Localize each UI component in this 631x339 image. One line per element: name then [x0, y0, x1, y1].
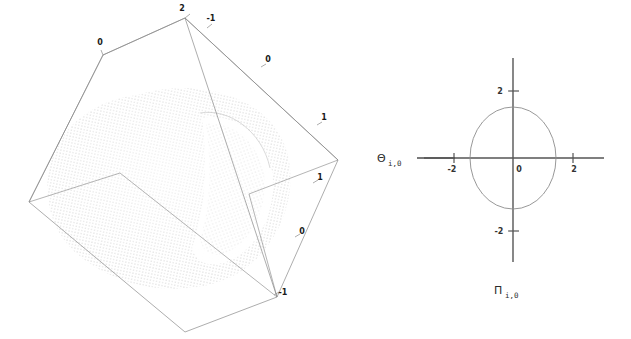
origin-label: 0: [516, 165, 522, 174]
figure-root: 2 -1 0 0 1 1 0 -1 Θ i,0 -2 2 2 -2 0 Π: [0, 0, 631, 339]
axis3d-label-upper-left: 0: [97, 38, 103, 47]
axis3d-label-lower-right-mid: 0: [299, 227, 305, 236]
axis3d-label-upper-right: -1: [207, 14, 216, 23]
x-tick-label-neg2: -2: [448, 165, 457, 174]
axis3d-label-lower-right-top: 1: [317, 173, 323, 182]
axis3d-label-right-edge-mid: 1: [321, 113, 327, 122]
theta-symbol-label: Θ: [377, 152, 386, 165]
pi-symbol-label: Π: [494, 284, 502, 297]
y-tick-label-pos2: 2: [497, 87, 503, 96]
axis3d-label-top-vertex: 2: [179, 4, 185, 13]
x-tick-label-pos2: 2: [571, 165, 577, 174]
theta-label-group: Θ i,0: [377, 152, 455, 168]
theta-subscript-label: i,0: [388, 159, 402, 168]
figure-canvas: 2 -1 0 0 1 1 0 -1 Θ i,0 -2 2 2 -2 0 Π: [0, 0, 631, 339]
pi-label-group: Π i,0: [494, 284, 519, 300]
plot2d-group: -2 2 2 -2 0: [424, 58, 604, 262]
axis3d-label-lower-right-bottom: -1: [279, 288, 288, 297]
pi-subscript-label: i,0: [505, 291, 519, 300]
plot3d-group: 2 -1 0 0 1 1 0 -1: [29, 4, 338, 332]
y-tick-label-neg2: -2: [495, 227, 504, 236]
axis3d-label-right-edge-top: 0: [265, 55, 271, 64]
